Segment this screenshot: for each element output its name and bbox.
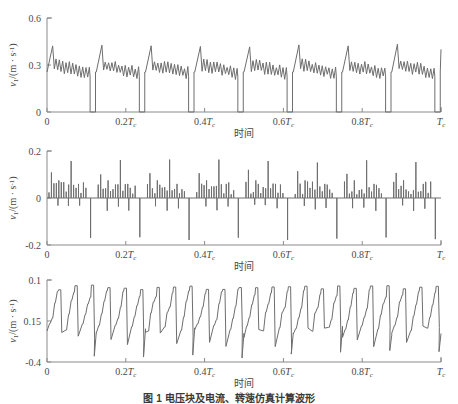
x-tick-label: 0.2Tc: [115, 116, 137, 129]
x-tick-label: 0.6Tc: [273, 366, 295, 379]
x-tick-label: Tc: [437, 249, 447, 262]
subplot-a: 00.30.600.2Tc0.4Tc0.6Tc0.8TcTc时间v1/(m · …: [0, 0, 458, 140]
x-tick-label: 0.4Tc: [194, 366, 216, 379]
x-tick-label: 0.6Tc: [273, 116, 295, 129]
y-axis-title: v1/(m · s-1): [7, 43, 20, 86]
x-tick-label: 0.6Tc: [273, 249, 295, 262]
x-axis-title: 时间: [234, 377, 254, 389]
y-tick-label: 0.3: [29, 60, 42, 71]
data-trace-b: [49, 160, 435, 240]
x-tick-label: 0.8Tc: [352, 366, 374, 379]
data-trace-c: [47, 285, 441, 358]
subplot-b: -0.200.200.2Tc0.4Tc0.6Tc0.8TcTc时间v1/(m ·…: [0, 133, 458, 273]
chart-c: -0.40.150.100.2Tc0.4Tc0.6Tc0.8TcTc时间v1/(…: [0, 262, 458, 397]
data-trace-a: [47, 44, 441, 112]
y-axis-title: v1/(m · s-1): [7, 299, 20, 342]
y-tick-label: 0.2: [29, 146, 42, 157]
x-tick-label: 0.2Tc: [115, 366, 137, 379]
x-tick-label: 0: [45, 366, 50, 377]
x-tick-label: 0.4Tc: [194, 249, 216, 262]
x-tick-label: 0.2Tc: [115, 249, 137, 262]
y-tick-label: 0.6: [29, 13, 42, 24]
figure-caption: 图 1 电压块及电流、转速仿真计算波形: [0, 392, 458, 404]
y-tick-label: 0: [36, 107, 41, 118]
x-tick-label: 0.8Tc: [352, 116, 374, 129]
y-tick-label: 0.15: [24, 316, 42, 327]
x-tick-label: 0: [45, 116, 50, 127]
y-tick-label: 0: [36, 193, 41, 204]
y-axis-title: v1/(m · s-1): [7, 176, 20, 219]
subplot-c: -0.40.150.100.2Tc0.4Tc0.6Tc0.8TcTc时间v1/(…: [0, 262, 458, 397]
x-tick-label: 0: [45, 249, 50, 260]
x-tick-label: 0.8Tc: [352, 249, 374, 262]
x-tick-label: Tc: [437, 116, 447, 129]
y-tick-label: -0.2: [25, 240, 41, 251]
y-tick-label: -0.4: [25, 357, 41, 368]
x-tick-label: Tc: [437, 366, 447, 379]
chart-b: -0.200.200.2Tc0.4Tc0.6Tc0.8TcTc时间v1/(m ·…: [0, 133, 458, 273]
y-tick-label: 0.1: [29, 275, 42, 286]
chart-a: 00.30.600.2Tc0.4Tc0.6Tc0.8TcTc时间v1/(m · …: [0, 0, 458, 140]
x-tick-label: 0.4Tc: [194, 116, 216, 129]
figure-container: 00.30.600.2Tc0.4Tc0.6Tc0.8TcTc时间v1/(m · …: [0, 0, 458, 404]
